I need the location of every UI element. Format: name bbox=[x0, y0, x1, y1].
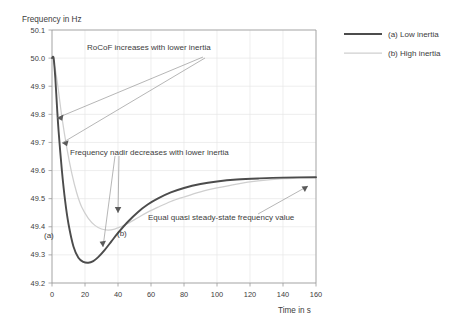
annotation-nadir: Frequency nadir decreases with lower ine… bbox=[70, 148, 229, 157]
legend-label-low-inertia: (a) Low inertia bbox=[388, 30, 439, 39]
y-tick-label: 49.5 bbox=[31, 194, 45, 203]
frequency-response-plot: 49.249.349.449.549.649.749.849.950.050.1… bbox=[0, 0, 449, 322]
x-tick-label: 0 bbox=[50, 290, 54, 299]
x-tick-label: 40 bbox=[114, 290, 122, 299]
inline-label-a: (a) bbox=[44, 231, 54, 240]
y-tick-label: 49.2 bbox=[31, 279, 45, 288]
chart-figure: 49.249.349.449.549.649.749.849.950.050.1… bbox=[0, 0, 449, 322]
x-tick-label: 80 bbox=[180, 290, 188, 299]
legend: (a) Low inertia (b) High inertia bbox=[344, 30, 441, 58]
annotation-steady-state: Equal quasi steady-state frequency value bbox=[148, 213, 295, 222]
x-tick-label: 160 bbox=[310, 290, 322, 299]
y-tick-label: 49.9 bbox=[31, 82, 45, 91]
inline-label-b: (b) bbox=[117, 229, 127, 238]
y-axis-ticks: 49.249.349.449.549.649.749.849.950.050.1 bbox=[31, 26, 52, 288]
x-tick-label: 60 bbox=[147, 290, 155, 299]
x-tick-label: 20 bbox=[81, 290, 89, 299]
x-axis-ticks: 020406080100120140160 bbox=[50, 283, 322, 299]
x-tick-label: 140 bbox=[277, 290, 289, 299]
x-tick-label: 120 bbox=[244, 290, 256, 299]
y-tick-label: 49.7 bbox=[31, 138, 45, 147]
y-tick-label: 49.6 bbox=[31, 166, 45, 175]
y-tick-label: 49.4 bbox=[31, 222, 45, 231]
x-tick-label: 100 bbox=[211, 290, 223, 299]
y-tick-label: 49.3 bbox=[31, 250, 45, 259]
annotation-rocof: RoCoF increases with lower inertia bbox=[87, 43, 211, 52]
legend-label-high-inertia: (b) High inertia bbox=[388, 49, 441, 58]
y-axis-title: Frequency in Hz bbox=[22, 15, 82, 24]
x-axis-title: Time in s bbox=[278, 306, 311, 315]
y-tick-label: 50.1 bbox=[31, 26, 45, 35]
y-tick-label: 49.8 bbox=[31, 110, 45, 119]
y-tick-label: 50.0 bbox=[31, 54, 45, 63]
